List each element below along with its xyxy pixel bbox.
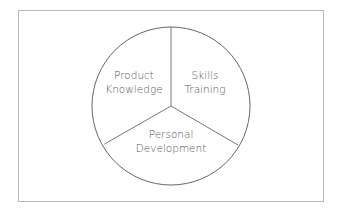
segment-product-knowledge-line1: Product: [114, 69, 154, 81]
circle-diagram: Product Knowledge Skills Training Person…: [0, 0, 342, 213]
segment-product-knowledge-line2: Knowledge: [105, 83, 162, 95]
segment-personal-development-line2: Development: [136, 142, 207, 154]
segment-skills-training-line1: Skills: [192, 69, 219, 81]
segment-personal-development-line1: Personal: [149, 128, 194, 140]
segment-skills-training-line2: Training: [184, 83, 225, 95]
